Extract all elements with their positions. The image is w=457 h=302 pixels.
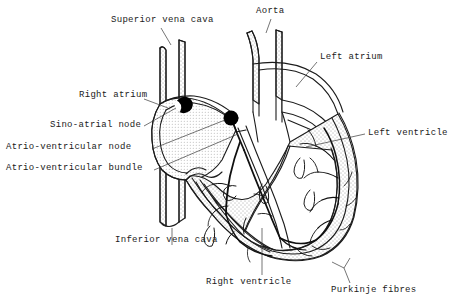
leader-purkinje-fibres [332,262,350,283]
label-inferior-vena-cava: Inferior vena cava [115,235,218,246]
label-right-ventricle: Right ventricle [206,277,292,288]
label-sino-atrial-node: Sino-atrial node [50,120,141,131]
label-aorta: Aorta [256,6,285,17]
label-left-ventricle: Left ventricle [368,128,448,139]
label-superior-vena-cava: Superior vena cava [111,15,214,26]
label-right-atrium: Right atrium [79,90,147,101]
leader-aorta [266,19,271,33]
label-atrio-ventricular-node: Atrio-ventricular node [6,142,131,153]
leader-superior-vena-cava [161,28,171,45]
label-left-atrium: Left atrium [320,52,383,63]
right-atrium [152,96,238,180]
heart-conduction-diagram: Superior vena cava Aorta Left atrium Rig… [0,0,457,302]
leader-purkinje-fibres-2 [344,258,350,268]
atrio-ventricular-node [224,111,239,126]
label-atrio-ventricular-bundle: Atrio-ventricular bundle [6,163,143,174]
label-purkinje-fibres: Purkinje fibres [331,285,417,296]
